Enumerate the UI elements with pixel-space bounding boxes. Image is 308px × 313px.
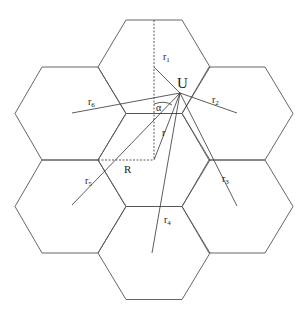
label-user-U: U [177, 75, 188, 91]
hex-cell-lower-right [182, 160, 293, 253]
label-angle-alpha: α [156, 102, 162, 113]
label-r: r [162, 127, 166, 138]
hex-cell-lower-left [15, 160, 126, 253]
hex-cell-upper-left [15, 67, 126, 160]
label-r4: r4 [164, 214, 171, 227]
label-r5: r5 [85, 175, 92, 188]
ray-r4 [152, 93, 180, 253]
hex-cell-diagram: U R α r r1 r2 r3 r4 r5 r6 [0, 0, 308, 313]
label-r3: r3 [222, 173, 229, 186]
diagram-svg: U R α r r1 r2 r3 r4 r5 r6 [0, 0, 308, 313]
label-radius-R: R [124, 163, 132, 175]
label-r1: r1 [163, 51, 170, 64]
label-r6: r6 [88, 96, 95, 109]
hex-cell-upper-right [182, 67, 293, 160]
hex-cell-bottom [98, 207, 210, 300]
label-r2: r2 [212, 94, 219, 107]
